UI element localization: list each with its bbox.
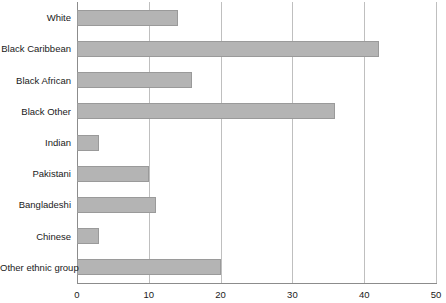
category-axis-labels: WhiteBlack CaribbeanBlack AfricanBlack O…	[0, 0, 71, 303]
category-label: Pakistani	[0, 168, 71, 179]
x-tick-label: 40	[359, 289, 370, 300]
category-label: Other ethnic group	[0, 262, 71, 273]
bar	[77, 166, 149, 182]
category-label: Black Caribbean	[0, 43, 71, 54]
x-tick-label: 0	[74, 289, 79, 300]
bar	[77, 10, 178, 26]
plot-area	[77, 2, 436, 283]
category-label: Black Other	[0, 106, 71, 117]
category-label: Black African	[0, 75, 71, 86]
bar	[77, 228, 99, 244]
x-tick-label: 30	[287, 289, 298, 300]
bars	[77, 2, 436, 283]
x-axis-line	[77, 283, 437, 284]
category-label: Indian	[0, 137, 71, 148]
bar	[77, 72, 192, 88]
bar	[77, 103, 335, 119]
bar	[77, 197, 156, 213]
bar-chart: WhiteBlack CaribbeanBlack AfricanBlack O…	[0, 0, 446, 303]
x-tick-label: 20	[215, 289, 226, 300]
bar	[77, 41, 379, 57]
x-tick-label: 50	[431, 289, 442, 300]
category-label: Bangladeshi	[0, 199, 71, 210]
bar	[77, 259, 221, 275]
x-tick-label: 10	[144, 289, 155, 300]
category-label: Chinese	[0, 231, 71, 242]
category-label: White	[0, 12, 71, 23]
bar	[77, 135, 99, 151]
gridline-50	[436, 2, 437, 283]
